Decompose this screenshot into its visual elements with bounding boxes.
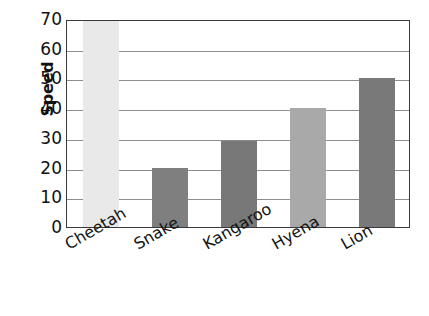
y-tick-label: 70 <box>28 11 62 28</box>
bar <box>359 78 395 227</box>
bars-layer <box>67 21 409 227</box>
x-axis-category-labels: CheetahSnakeKangarooHyenaLion <box>66 228 410 316</box>
y-tick-label: 20 <box>28 160 62 177</box>
y-tick-label: 10 <box>28 189 62 206</box>
bar-chart: Speed 010203040506070 CheetahSnakeKangar… <box>0 0 429 316</box>
bar <box>83 20 119 227</box>
y-tick-label: 60 <box>28 41 62 58</box>
plot-area <box>66 20 410 228</box>
bar <box>290 108 326 227</box>
y-tick-label: 40 <box>28 100 62 117</box>
y-axis-tick-labels: 010203040506070 <box>28 20 62 228</box>
y-tick-label: 0 <box>28 219 62 236</box>
y-tick-label: 50 <box>28 70 62 87</box>
y-tick-label: 30 <box>28 130 62 147</box>
